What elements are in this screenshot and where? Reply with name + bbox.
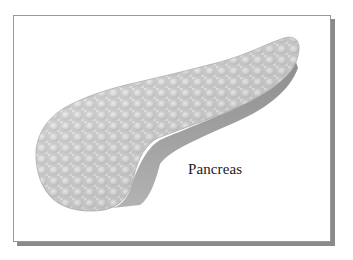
- pancreas-illustration: [0, 0, 353, 260]
- pancreas-label: Pancreas: [188, 161, 242, 178]
